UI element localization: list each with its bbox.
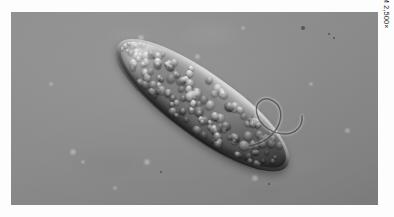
magnification-text: LM 2,500× <box>382 0 391 29</box>
debris-speck <box>346 129 349 132</box>
debris-speck <box>333 37 335 39</box>
magnification-label: LM 2,500× <box>380 6 393 80</box>
micrograph-figure: LM 2,500× <box>0 0 394 217</box>
organism <box>99 46 311 172</box>
micrograph-photo <box>11 12 378 205</box>
